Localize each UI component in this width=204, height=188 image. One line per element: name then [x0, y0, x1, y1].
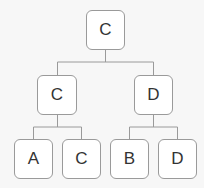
leaf-node-3: B [110, 139, 149, 179]
root-node: C [86, 10, 125, 50]
level2-node-right: D [134, 75, 173, 115]
leaf-node-1: A [14, 139, 53, 179]
leaf-node-4: D [158, 139, 197, 179]
leaf-node-2: C [62, 139, 101, 179]
level2-node-left: C [37, 75, 77, 115]
